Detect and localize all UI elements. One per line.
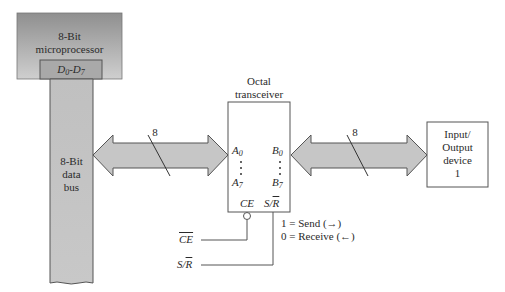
- io-device-line1: Input/: [427, 128, 488, 141]
- io-device-line4: 1: [427, 167, 488, 180]
- pin-ce: CE: [240, 197, 254, 210]
- sr-input-label: S/R: [177, 258, 192, 271]
- pin-b7: B7: [272, 176, 283, 192]
- microprocessor-title: 8-Bit microprocessor: [17, 30, 122, 56]
- transceiver-title-line2: transceiver: [218, 88, 300, 101]
- transceiver-title-line1: Octal: [218, 75, 300, 88]
- pin-a7: A7: [232, 176, 243, 192]
- left-bus-width-label: 8: [150, 126, 160, 139]
- microprocessor-title-line1: 8-Bit: [17, 30, 122, 43]
- data-bus-line2: data: [50, 168, 93, 181]
- pin-b0: B0: [272, 144, 283, 160]
- sr-wire: [201, 212, 273, 265]
- transceiver-title: Octal transceiver: [218, 75, 300, 101]
- io-device-line3: device: [427, 154, 488, 167]
- io-device-label: Input/ Output device 1: [427, 128, 488, 180]
- pin-a0: A0: [232, 144, 243, 160]
- microprocessor-title-line2: microprocessor: [17, 43, 122, 56]
- left-bus-arrow[interactable]: [93, 135, 228, 176]
- ce-input-label: CE: [179, 233, 193, 246]
- legend-send: 1 = Send (→): [281, 217, 341, 230]
- port-label: D0-D7: [40, 63, 102, 79]
- ce-wire: [201, 220, 247, 240]
- legend-receive: 0 = Receive (←): [281, 230, 355, 243]
- data-bus-line3: bus: [50, 181, 93, 194]
- right-bus-arrow[interactable]: [291, 135, 427, 176]
- right-bus-width-label: 8: [350, 126, 360, 139]
- data-bus-line1: 8-Bit: [50, 155, 93, 168]
- ce-inversion-bubble: [244, 213, 251, 220]
- data-bus-label: 8-Bit data bus: [50, 155, 93, 194]
- pin-sr: S/R: [264, 197, 279, 210]
- io-device-line2: Output: [427, 141, 488, 154]
